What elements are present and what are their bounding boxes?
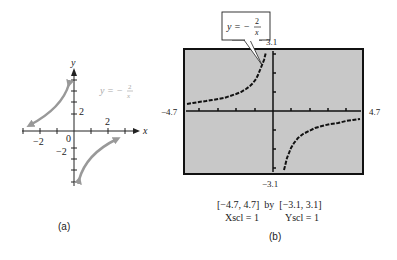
x-tick-label-2: 2: [105, 116, 110, 127]
xmax-label: 4.7: [369, 107, 381, 117]
y-axis-arrow-icon: [71, 68, 77, 76]
xscl-text: Xscl = 1: [225, 212, 259, 223]
y-axis-label: y: [70, 57, 76, 68]
xmin-label: −4.7: [161, 107, 178, 117]
x-axis-arrow-icon: [133, 128, 140, 134]
panel-a-graph: y x −2 2 2 −2 0 y = − 2 x (a): [22, 57, 148, 232]
svg-text:y = −: y = −: [99, 85, 123, 96]
caption-b: (b): [269, 231, 281, 242]
x-axis-label: x: [142, 125, 148, 136]
window-text: [−4.7, 4.7] by [−3.1, 3.1]: [217, 199, 322, 210]
svg-text:x: x: [126, 92, 131, 100]
y-tick-label-neg2: −2: [56, 146, 67, 157]
origin-label: 0: [66, 133, 71, 144]
ymin-label: −3.1: [262, 179, 278, 189]
callout-denominator: x: [254, 28, 259, 37]
figure: y x −2 2 2 −2 0 y = − 2 x (a): [0, 0, 397, 260]
yscl-text: Yscl = 1: [285, 212, 319, 223]
callout-lhs: y = −: [226, 21, 250, 32]
curve-left-branch: [30, 84, 69, 125]
x-tick-label-neg2: −2: [33, 136, 44, 147]
ymax-label: 3.1: [266, 37, 277, 47]
function-label: y = − 2 x: [99, 83, 133, 100]
svg-text:2: 2: [128, 83, 132, 91]
panel-b-graph: y = − 2 x 3.1 −3.1 −4.7 4.7 [−4.7, 4.7] …: [161, 12, 381, 242]
callout-numerator: 2: [255, 17, 259, 26]
caption-a: (a): [58, 221, 70, 232]
curve-right-branch: [79, 139, 117, 180]
y-tick-label-2: 2: [79, 106, 84, 117]
